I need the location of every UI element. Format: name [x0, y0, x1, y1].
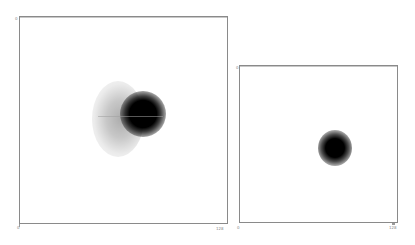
left-origin-tick	[19, 224, 20, 227]
panel-top-edge	[240, 66, 397, 67]
right-x-tick-max: 128	[389, 226, 397, 230]
panel-top-edge	[20, 17, 227, 18]
dark-core-blob	[318, 130, 352, 166]
right-y-tick-top: 0	[236, 66, 239, 70]
heatmap-panel-left	[19, 16, 228, 224]
dark-core-blob	[120, 91, 166, 137]
left-x-tick-max: 128	[216, 227, 224, 231]
horizontal-streak	[98, 116, 163, 117]
heatmap-panel-right	[239, 65, 398, 223]
right-corner-tick	[392, 223, 395, 225]
right-x-tick-min: 0	[237, 226, 240, 230]
left-y-tick-top: 0	[15, 17, 18, 21]
